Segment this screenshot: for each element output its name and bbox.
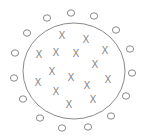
x-marker: X xyxy=(53,47,60,58)
o-marker xyxy=(107,113,114,119)
o-marker xyxy=(84,124,91,130)
o-marker xyxy=(58,125,65,131)
x-marker: X xyxy=(53,86,60,97)
o-marker xyxy=(10,75,17,81)
diagram-svg: XXXXXXXXXXXXXXX xyxy=(0,0,143,140)
x-marker: X xyxy=(59,30,66,41)
diagram-canvas: XXXXXXXXXXXXXXX xyxy=(0,0,143,140)
x-marker: X xyxy=(83,34,90,45)
o-marker xyxy=(90,13,97,19)
x-marker: X xyxy=(90,94,97,105)
o-marker xyxy=(19,96,26,102)
o-markers xyxy=(10,10,135,131)
o-marker xyxy=(122,93,129,99)
x-markers: XXXXXXXXXXXXXXX xyxy=(35,30,112,110)
o-marker xyxy=(36,115,43,121)
x-marker: X xyxy=(84,80,91,91)
x-marker: X xyxy=(73,48,80,59)
x-marker: X xyxy=(105,74,112,85)
o-marker xyxy=(23,30,30,36)
x-marker: X xyxy=(92,59,99,70)
o-marker xyxy=(43,15,50,21)
x-marker: X xyxy=(66,99,73,110)
o-marker xyxy=(11,50,18,56)
o-marker xyxy=(126,46,133,52)
x-marker: X xyxy=(49,66,56,77)
o-marker xyxy=(128,70,135,76)
x-marker: X xyxy=(102,45,109,56)
x-marker: X xyxy=(35,77,42,88)
x-marker: X xyxy=(68,72,75,83)
x-marker: X xyxy=(36,49,43,60)
o-marker xyxy=(112,27,119,33)
o-marker xyxy=(67,10,74,16)
